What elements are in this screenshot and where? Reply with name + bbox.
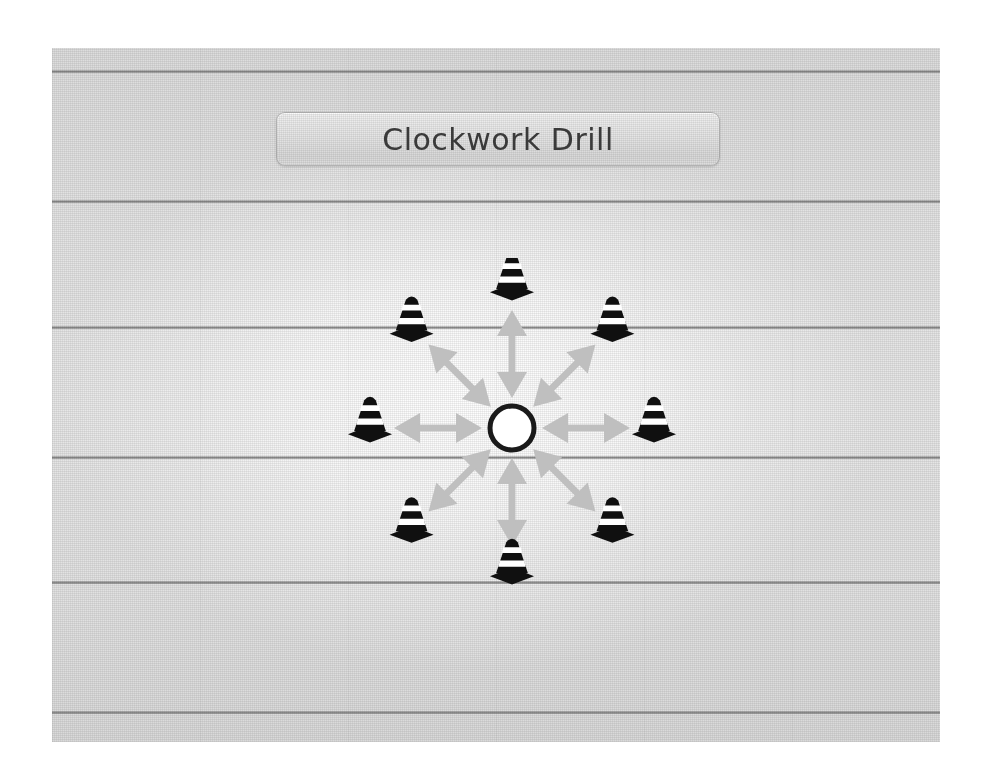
arrow-cone-w <box>394 413 482 443</box>
cone-10-30 <box>390 296 434 342</box>
cone-1-30-stripe-upper <box>602 305 622 311</box>
cone-3-stripe-lower <box>640 418 667 424</box>
arrow-cone-n-outer-head <box>497 310 527 336</box>
cone-9-stripe-upper <box>360 405 380 411</box>
center-marker <box>490 406 534 450</box>
arrow-cone-s-inner-head <box>497 458 527 484</box>
cone-7-30-body <box>396 497 428 531</box>
arrow-cone-w-shaft <box>418 425 458 432</box>
arrow-cone-sw-shaft <box>443 464 476 497</box>
field-line-6 <box>52 711 940 714</box>
cone-7-30-stripe-lower <box>398 519 425 525</box>
arrow-cone-ne-shaft <box>548 359 581 392</box>
cone-9 <box>348 397 392 443</box>
arrow-cone-w-inner-head <box>456 413 482 443</box>
slide-canvas: Clockwork Drill <box>52 48 940 742</box>
arrow-cone-s <box>497 458 527 546</box>
cone-6 <box>490 539 534 585</box>
arrow-cone-w-outer-head <box>394 413 420 443</box>
cone-10-30-stripe-lower <box>398 318 425 324</box>
cone-7-30 <box>390 497 434 543</box>
arrow-cone-n-inner-head <box>497 372 527 398</box>
cone-1-30-body <box>597 296 629 330</box>
arrow-cone-n-shaft <box>509 334 516 374</box>
cone-10-30-body <box>396 296 428 330</box>
arrow-cone-e-inner-head <box>542 413 568 443</box>
cone-6-stripe-upper <box>502 547 522 553</box>
cone-6-stripe-lower <box>498 560 525 566</box>
field-line-1 <box>52 70 940 73</box>
cone-12-stripe-upper <box>502 263 522 269</box>
cone-3-stripe-upper <box>644 405 664 411</box>
arrow-cone-e-shaft <box>566 425 606 432</box>
cone-6-body <box>496 539 528 573</box>
cone-7-30-stripe-upper <box>402 506 422 512</box>
arrow-cone-e <box>542 413 630 443</box>
arrow-cone-se-shaft <box>548 464 581 497</box>
field-line-2 <box>52 200 940 203</box>
cone-1-30-stripe-lower <box>599 318 626 324</box>
cone-12 <box>490 258 534 300</box>
arrow-cone-sw <box>418 439 501 522</box>
cone-4-30-stripe-lower <box>599 519 626 525</box>
arrow-cone-nw-shaft <box>443 359 476 392</box>
drill-svg <box>342 258 682 598</box>
cone-12-body <box>496 258 528 289</box>
page-title: Clockwork Drill <box>382 122 614 157</box>
arrow-cone-s-shaft <box>509 482 516 522</box>
start-position-circle <box>490 406 534 450</box>
cone-9-body <box>354 397 386 431</box>
cone-9-stripe-lower <box>356 418 383 424</box>
arrow-cone-se <box>523 439 606 522</box>
cone-4-30-stripe-upper <box>602 506 622 512</box>
cone-1-30 <box>590 296 634 342</box>
arrow-cone-e-outer-head <box>604 413 630 443</box>
cone-3 <box>632 397 676 443</box>
cone-4-30-body <box>597 497 629 531</box>
cone-10-30-stripe-upper <box>402 305 422 311</box>
arrow-cone-ne <box>523 334 606 417</box>
cone-3-body <box>638 397 670 431</box>
clockwork-drill-diagram <box>342 258 682 598</box>
arrow-cone-nw <box>418 334 501 417</box>
title-plaque[interactable]: Clockwork Drill <box>276 112 720 166</box>
cone-12-stripe-lower <box>498 276 525 282</box>
cone-4-30 <box>590 497 634 543</box>
arrow-cone-n <box>497 310 527 398</box>
